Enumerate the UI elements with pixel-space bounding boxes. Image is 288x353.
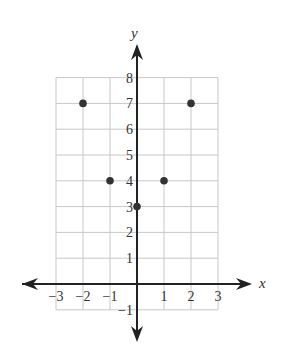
x-tick-label: −1 — [103, 289, 118, 304]
data-point — [160, 177, 168, 185]
scatter-chart: x y −3−2−1123−112345678 — [0, 0, 288, 353]
y-tick-label: 5 — [126, 148, 133, 163]
y-tick-label: 4 — [126, 174, 133, 189]
x-tick-label: 2 — [188, 289, 195, 304]
data-point — [79, 100, 87, 108]
y-tick-label: 1 — [126, 251, 133, 266]
tick-labels: −3−2−1123−112345678 — [49, 71, 222, 318]
x-tick-label: 3 — [215, 289, 222, 304]
x-axis-label: x — [258, 275, 266, 291]
y-tick-label: −1 — [118, 303, 133, 318]
x-tick-label: −3 — [49, 289, 64, 304]
data-point — [133, 203, 141, 211]
x-tick-label: −2 — [76, 289, 91, 304]
data-point — [106, 177, 114, 185]
y-tick-label: 3 — [126, 200, 133, 215]
y-axis-label: y — [129, 25, 138, 41]
y-tick-label: 7 — [126, 96, 133, 111]
y-tick-label: 8 — [126, 71, 133, 86]
x-tick-label: 1 — [161, 289, 168, 304]
data-point — [187, 100, 195, 108]
y-tick-label: 2 — [126, 225, 133, 240]
y-tick-label: 6 — [126, 122, 133, 137]
